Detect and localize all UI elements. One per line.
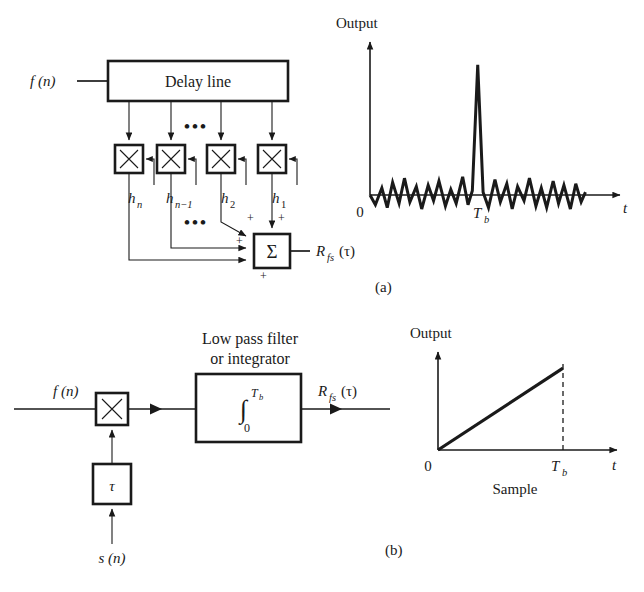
chart-b-xtick-tb: T b [551, 458, 567, 478]
tau-delay-label: τ [109, 478, 115, 494]
tap-coefficient-2-name: h [166, 190, 174, 206]
chart-b-ramp [438, 368, 563, 450]
tap-coefficient-4-name: h [272, 190, 280, 206]
tap-coefficient-4: h 1 [272, 190, 286, 210]
chart-a-origin-label: 0 [356, 204, 364, 220]
caption-a: (a) [375, 279, 392, 296]
coeff-wire-3 [238, 159, 246, 185]
panel-b-delay-input-label: s (n) [98, 550, 125, 567]
panel-a-output-label: R fs (τ) [315, 243, 355, 263]
coeff-wire-1 [146, 159, 154, 185]
tap-coefficient-1-sub: n [137, 199, 142, 210]
tap-coefficient-2-sub: n−1 [175, 199, 193, 210]
chart-b-origin-label: 0 [424, 458, 432, 474]
chart-b-xlabel: t [612, 457, 617, 473]
filter-title-line1: Low pass filter [202, 330, 299, 348]
panel-b-input-label: f (n) [53, 383, 78, 400]
tap-coefficient-3-name: h [221, 190, 229, 206]
sum-plus-sign-1: + [247, 211, 254, 225]
delay-line-label: Delay line [165, 73, 231, 91]
tap-coefficient-2: h n−1 [166, 190, 193, 210]
sum-plus-sign-2: + [278, 211, 285, 225]
panel-a-ellipsis-upper: ••• [184, 117, 208, 136]
panel-a-output-label-name: R [315, 243, 325, 259]
tap-coefficient-3: h 2 [221, 190, 235, 210]
sum-input-wire-hn1 [171, 173, 246, 248]
panel-a-input-label: f (n) [30, 73, 55, 90]
chart-a-xtick-tb: T b [473, 205, 489, 225]
panel-b-output-label: R fs (τ) [317, 383, 357, 403]
integral-lower-limit: 0 [244, 421, 250, 435]
sum-plus-sign-3: + [236, 234, 243, 248]
panel-b-output-label-arg: (τ) [341, 383, 357, 400]
filter-title-line2: or integrator [210, 350, 290, 368]
tap-coefficient-4-sub: 1 [281, 199, 286, 210]
chart-b-xtick-tb-label: T [551, 458, 561, 474]
chart-a-waveform [370, 65, 585, 209]
chart-b-sublabel: Sample [493, 481, 538, 497]
panel-b-output-label-sub: fs [329, 392, 336, 403]
figure-svg: f (n) Delay line ••• [0, 0, 644, 592]
chart-b-ylabel: Output [410, 325, 453, 341]
panel-a-block-diagram: f (n) Delay line ••• [30, 61, 355, 283]
panel-b-block-diagram: f (n) τ s (n) Low pass filter or integra… [14, 330, 390, 567]
panel-a-ellipsis-lower: ••• [184, 213, 208, 232]
summation-symbol: Σ [266, 241, 277, 262]
coeff-wire-4 [289, 159, 297, 185]
figure-container: f (n) Delay line ••• [0, 0, 644, 592]
panel-b-mult-to-filter-arrow [150, 404, 162, 415]
panel-a-output-label-arg: (τ) [339, 243, 355, 260]
panel-b-output-chart: Output 0 t T b Sample [410, 325, 617, 497]
panel-b-output-label-name: R [317, 383, 327, 399]
integral-upper-limit-sub: b [259, 392, 263, 402]
coeff-wire-2 [188, 159, 196, 185]
chart-b-xtick-tb-sub: b [562, 467, 567, 478]
chart-a-xlabel: t [623, 200, 628, 216]
chart-a-xtick-tb-sub: b [484, 214, 489, 225]
chart-a-ylabel: Output [336, 15, 379, 31]
sum-plus-sign-4: + [260, 269, 267, 283]
chart-a-xtick-tb-label: T [473, 205, 483, 221]
panel-a-output-label-sub: fs [327, 252, 334, 263]
panel-a-output-chart: Output 0 t T b [336, 15, 628, 225]
tap-coefficient-3-sub: 2 [230, 199, 235, 210]
panel-b-output-arrow [330, 404, 342, 415]
caption-b: (b) [385, 542, 403, 559]
tap-coefficient-1: h n [128, 190, 142, 210]
